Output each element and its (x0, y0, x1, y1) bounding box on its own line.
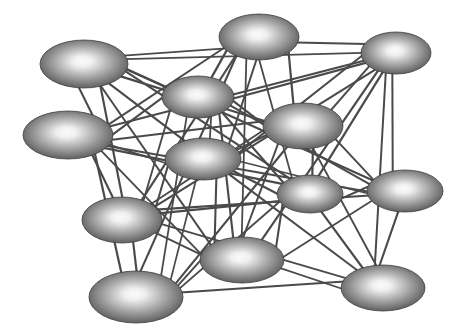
node-ellipse[interactable] (263, 103, 343, 149)
node-ellipse[interactable] (89, 271, 183, 323)
network-diagram (0, 0, 466, 332)
node-top-center[interactable] (219, 14, 299, 60)
node-ellipse[interactable] (23, 111, 113, 159)
node-center[interactable] (165, 138, 241, 180)
node-mid-right[interactable] (277, 175, 343, 213)
node-left-upper[interactable] (23, 111, 113, 159)
node-top-left[interactable] (40, 40, 128, 88)
node-ellipse[interactable] (200, 237, 284, 283)
node-ellipse[interactable] (40, 40, 128, 88)
node-bottom-left[interactable] (89, 271, 183, 323)
node-top-right[interactable] (361, 32, 431, 74)
node-ellipse[interactable] (277, 175, 343, 213)
node-bottom-right[interactable] (341, 265, 425, 311)
node-upper-mid-left[interactable] (162, 76, 234, 118)
node-left-lower[interactable] (82, 197, 162, 243)
node-ellipse[interactable] (219, 14, 299, 60)
graph-edge (312, 147, 313, 175)
node-right-lower[interactable] (367, 170, 443, 212)
node-ellipse[interactable] (361, 32, 431, 74)
node-ellipse[interactable] (82, 197, 162, 243)
node-ellipse[interactable] (165, 138, 241, 180)
node-ellipse[interactable] (367, 170, 443, 212)
network-canvas (0, 0, 466, 332)
node-bottom-center[interactable] (200, 237, 284, 283)
node-ellipse[interactable] (162, 76, 234, 118)
node-ellipse[interactable] (341, 265, 425, 311)
node-center-right[interactable] (263, 103, 343, 149)
